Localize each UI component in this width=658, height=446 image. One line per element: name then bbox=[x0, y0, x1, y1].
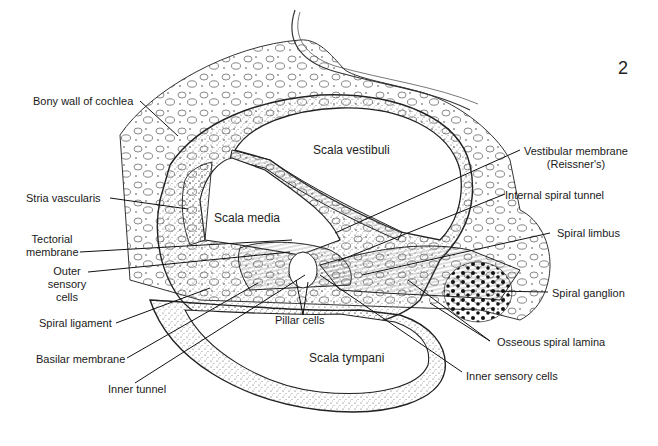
figure-number: 2 bbox=[618, 58, 628, 79]
label-osseous-spiral-lamina: Osseous spiral lamina bbox=[497, 336, 605, 349]
label-line: sensory bbox=[45, 278, 89, 291]
region-scala-vestibuli: Scala vestibuli bbox=[313, 143, 390, 157]
region-scala-media: Scala media bbox=[214, 211, 280, 225]
label-outer-sensory-cells: Outer sensory cells bbox=[45, 265, 89, 304]
label-vestibular-membrane: Vestibular membrane (Reissner's) bbox=[522, 145, 630, 171]
label-spiral-limbus: Spiral limbus bbox=[557, 227, 620, 240]
label-bony-wall: Bony wall of cochlea bbox=[33, 95, 133, 108]
label-inner-tunnel: Inner tunnel bbox=[108, 383, 166, 396]
label-line: Outer bbox=[45, 265, 89, 278]
cochlea-diagram: 2 Scala vestibuli Scala media Scala tymp… bbox=[0, 0, 658, 446]
label-line: (Reissner's) bbox=[522, 158, 630, 171]
region-scala-tympani: Scala tympani bbox=[309, 351, 384, 365]
label-inner-sensory-cells: Inner sensory cells bbox=[466, 370, 558, 383]
cochlea-illustration bbox=[0, 0, 658, 446]
label-basilar-membrane: Basilar membrane bbox=[36, 353, 125, 366]
label-spiral-ganglion: Spiral ganglion bbox=[552, 287, 625, 300]
label-pillar-cells: Pillar cells bbox=[275, 314, 325, 327]
label-stria-vascularis: Stria vascularis bbox=[26, 192, 101, 205]
label-internal-spiral-tunnel: Internal spiral tunnel bbox=[505, 189, 604, 202]
label-line: Tectorial bbox=[26, 233, 78, 246]
label-line: cells bbox=[45, 291, 89, 304]
label-spiral-ligament: Spiral ligament bbox=[39, 317, 112, 330]
label-line: Vestibular membrane bbox=[522, 145, 630, 158]
label-tectorial-membrane: Tectorial membrane bbox=[26, 233, 78, 259]
label-line: membrane bbox=[26, 246, 78, 259]
